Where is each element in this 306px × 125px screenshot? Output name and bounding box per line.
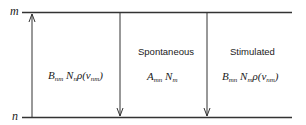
absorption-arrow — [29, 14, 35, 117]
upper-level-label: m — [10, 4, 19, 19]
energy-level-diagram — [0, 0, 306, 125]
spontaneous-arrow — [117, 13, 123, 116]
absorption-rate-formula: Bnm Nnρ(νnm) — [48, 69, 103, 83]
stimulated-rate-formula: Bmn Nmρ(νnm) — [222, 70, 279, 84]
lower-level-label: n — [12, 109, 18, 124]
spontaneous-rate-formula: Amn Nm — [147, 70, 177, 84]
spontaneous-label: Spontaneous — [138, 46, 194, 57]
stimulated-label: Stimulated — [230, 46, 275, 57]
stimulated-arrow — [204, 13, 210, 116]
